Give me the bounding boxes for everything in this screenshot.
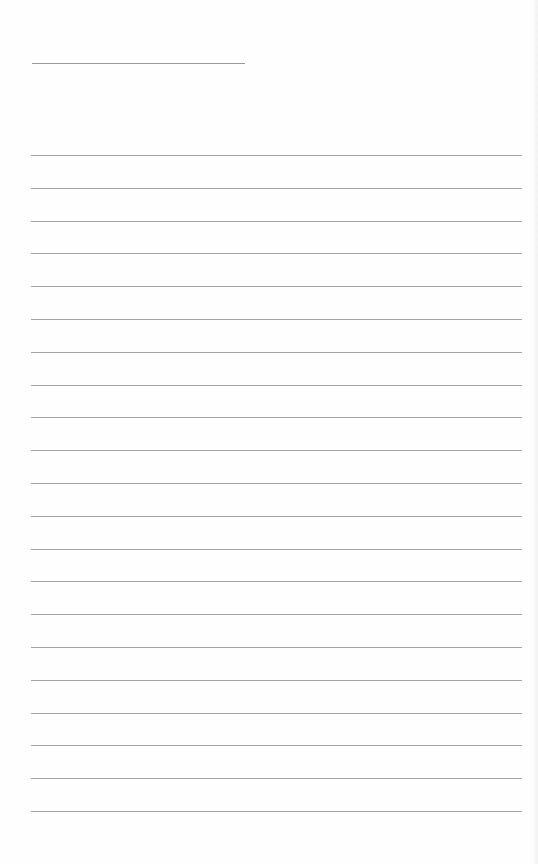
ruled-line <box>31 778 522 779</box>
ruled-line <box>31 221 522 222</box>
ruled-line <box>31 385 522 386</box>
ruled-line <box>31 713 522 714</box>
page-edge <box>532 0 538 864</box>
ruled-line <box>31 352 522 353</box>
title-line <box>32 63 245 64</box>
ruled-line <box>31 614 522 615</box>
ruled-line <box>31 647 522 648</box>
ruled-line <box>31 155 522 156</box>
ruled-line <box>31 516 522 517</box>
ruled-line <box>31 253 522 254</box>
ruled-line <box>31 483 522 484</box>
ruled-line <box>31 286 522 287</box>
ruled-line <box>31 188 522 189</box>
ruled-line <box>31 549 522 550</box>
ruled-page <box>0 0 538 864</box>
ruled-line <box>31 450 522 451</box>
ruled-line <box>31 680 522 681</box>
ruled-line <box>31 811 522 812</box>
ruled-line <box>31 319 522 320</box>
ruled-line <box>31 581 522 582</box>
ruled-line <box>31 417 522 418</box>
ruled-line <box>31 745 522 746</box>
